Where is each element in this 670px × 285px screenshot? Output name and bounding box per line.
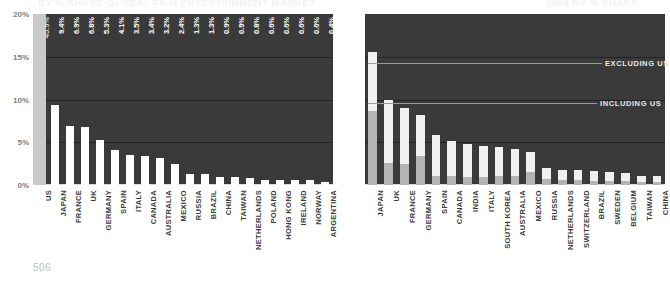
bar — [201, 174, 209, 185]
category-label: INDIA — [471, 190, 480, 212]
category-label: RUSSIA — [550, 190, 559, 220]
y-axis-tick: 5% — [17, 138, 29, 147]
left-chart-title: BY % SHARE GLOBAL FILM ENTERTAINMENT MAR… — [38, 0, 316, 8]
category-label: SPAIN — [119, 190, 128, 214]
category-label: RUSSIA — [194, 190, 203, 220]
category-label: BELGIUM — [629, 190, 638, 227]
grid-line — [33, 142, 333, 143]
bar — [276, 180, 284, 185]
bar — [432, 135, 441, 185]
bar-value-label: 45.9% — [42, 17, 51, 38]
category-label: MEXICO — [534, 190, 543, 221]
bar-value-label: 0.6% — [282, 17, 291, 34]
bar — [33, 14, 46, 185]
bar-value-label: 0.9% — [237, 17, 246, 34]
bar — [574, 170, 583, 185]
bar — [51, 105, 59, 185]
right-chart-title: 2009 BY % SHARE — [546, 0, 638, 8]
bar — [495, 147, 504, 185]
bar — [653, 176, 662, 185]
bar-segment-including-us — [447, 141, 456, 177]
category-label: SPAIN — [440, 190, 449, 214]
bar-segment-including-us — [621, 173, 630, 181]
bar-value-label: 6.9% — [72, 17, 81, 34]
bar-segment-excluding-us — [384, 163, 393, 185]
bar — [306, 180, 314, 185]
bar — [81, 127, 89, 185]
bar — [621, 173, 630, 185]
y-axis-tick: 20% — [13, 10, 29, 19]
bar-value-label: 6.8% — [87, 17, 96, 34]
bar-segment-excluding-us — [621, 181, 630, 185]
bar-value-label: 9.4% — [57, 17, 66, 34]
bar-value-label: 3.2% — [162, 17, 171, 34]
bar-segment-excluding-us — [479, 177, 488, 185]
category-label: UK — [392, 190, 401, 201]
bar — [141, 156, 149, 185]
left-chart-category-labels: USJAPANFRANCEUKGERMANYSPAINITALYCANADAAU… — [33, 190, 333, 260]
grid-line — [365, 142, 665, 143]
excluding-us-leader-line — [368, 63, 602, 64]
bar-segment-including-us — [479, 146, 488, 178]
bar-value-label: 3.4% — [147, 17, 156, 34]
bar-segment-including-us — [526, 152, 535, 173]
category-label: ITALY — [487, 190, 496, 212]
y-axis-tick: 15% — [13, 52, 29, 61]
bar-segment-excluding-us — [637, 182, 646, 185]
bar — [66, 126, 74, 185]
bar — [321, 182, 329, 185]
category-label: FRANCE — [74, 190, 83, 223]
category-label: TAIWAN — [239, 190, 248, 221]
left-chart-plot-area: 45.9%9.4%6.9%6.8%5.3%4.1%3.5%3.4%3.2%2.4… — [33, 14, 333, 185]
bar — [400, 108, 409, 185]
grid-line — [365, 57, 665, 58]
grid-line — [33, 100, 333, 101]
bar-value-label: 4.1% — [117, 17, 126, 34]
category-label: HONG KONG — [284, 190, 293, 240]
bar-segment-excluding-us — [605, 181, 614, 185]
bar-segment-excluding-us — [558, 180, 567, 185]
category-label: SWEDEN — [613, 190, 622, 225]
bar-segment-including-us — [511, 149, 520, 176]
bar-segment-excluding-us — [495, 176, 504, 185]
grid-line — [33, 57, 333, 58]
bar — [126, 155, 134, 185]
category-label: FRANCE — [408, 190, 417, 223]
category-label: UK — [89, 190, 98, 201]
bar — [216, 177, 224, 185]
bar-segment-excluding-us — [590, 181, 599, 185]
bar-segment-including-us — [558, 170, 567, 180]
bar-segment-excluding-us — [653, 182, 662, 185]
bar-value-label: 2.4% — [177, 17, 186, 34]
bar — [96, 140, 104, 185]
bar-value-label: 0.6% — [297, 17, 306, 34]
bar-value-label: 0.4% — [327, 17, 333, 34]
category-label: AUSTRALIA — [518, 190, 527, 236]
bar-segment-excluding-us — [526, 172, 535, 185]
bar-value-label: 3.5% — [132, 17, 141, 34]
category-label: NORWAY — [314, 190, 323, 225]
bar — [637, 176, 646, 185]
bar — [384, 100, 393, 185]
category-label: CHINA — [224, 190, 233, 215]
category-label: CANADA — [149, 190, 158, 224]
bar — [447, 141, 456, 185]
bar — [111, 150, 119, 185]
bar-value-label: 0.9% — [222, 17, 231, 34]
category-label: BRAZIL — [209, 190, 218, 219]
category-label: NETHERLANDS — [566, 190, 575, 250]
axis-baseline — [33, 184, 333, 185]
bar — [246, 178, 254, 185]
bar-segment-excluding-us — [574, 180, 583, 185]
bar — [261, 180, 269, 185]
bar-segment-excluding-us — [368, 111, 377, 185]
category-label: GERMANY — [104, 190, 113, 230]
bar-value-label: 0.8% — [252, 17, 261, 34]
bar — [186, 174, 194, 185]
bar-segment-excluding-us — [416, 156, 425, 185]
bar — [526, 152, 535, 185]
category-label: ARGENTINA — [329, 190, 338, 237]
bar — [511, 149, 520, 185]
bar — [590, 171, 599, 185]
bar-value-label: 0.6% — [312, 17, 321, 34]
